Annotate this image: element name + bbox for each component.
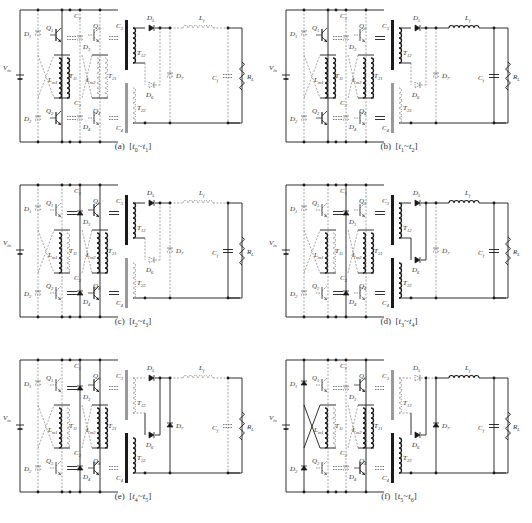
label-d7: D7	[175, 422, 184, 431]
label-t11: T11	[335, 72, 343, 81]
label-d3: D3	[348, 393, 357, 402]
panel-label: (a)	[115, 141, 125, 151]
label-d1: D1	[23, 30, 31, 39]
label-d7: D7	[441, 72, 450, 81]
label-q1: Q1	[312, 374, 319, 383]
label-cf: Cf	[212, 424, 219, 433]
label-d4: D4	[82, 473, 91, 482]
circuit-panel-c: VinD1D2Q1Q2C1C2D3D4Lm1T11Q3Q4C3C4Lm2T21T…	[0, 175, 266, 345]
label-d4: D4	[82, 298, 91, 307]
label-d4: D4	[348, 298, 357, 307]
label-q2: Q2	[312, 457, 320, 466]
label-d2: D2	[289, 465, 298, 474]
label-t12: T12	[403, 224, 412, 233]
panel-label: (c)	[115, 316, 125, 326]
label-c1: C1	[74, 12, 81, 21]
label-d2: D2	[289, 290, 298, 299]
label-d3: D3	[82, 393, 91, 402]
label-l1: Lf	[198, 364, 205, 373]
label-d4: D4	[348, 123, 357, 132]
label-lm1: Lm1	[313, 251, 323, 260]
label-d3: D3	[82, 43, 91, 52]
label-c3: C3	[382, 197, 390, 206]
label-d5: D5	[412, 364, 421, 373]
label-c4: C4	[116, 299, 124, 308]
label-d4: D4	[348, 473, 357, 482]
label-rl: RL	[246, 73, 254, 82]
label-t21: T21	[108, 72, 116, 81]
label-q3: Q3	[359, 22, 367, 31]
label-c1: C1	[340, 362, 347, 371]
label-c2: C2	[74, 449, 82, 458]
label-q2: Q2	[312, 107, 320, 116]
label-vin: Vin	[3, 414, 12, 423]
label-c4: C4	[382, 474, 390, 483]
circuit-diagram: VinD1D2Q1Q2C1C2D3D4Lm1T11Q3Q4C3C4Lm2T21T…	[266, 0, 532, 155]
label-t21: T21	[108, 422, 116, 431]
label-q3: Q3	[93, 22, 101, 31]
label-d2: D2	[23, 115, 32, 124]
label-d1: D1	[23, 205, 31, 214]
label-t22: T22	[403, 104, 412, 113]
label-q1: Q1	[46, 199, 53, 208]
label-d1: D1	[289, 205, 297, 214]
panel-caption: (b) [t1~t2]	[266, 141, 532, 153]
label-d5: D5	[146, 189, 155, 198]
label-d7: D7	[175, 247, 184, 256]
label-c2: C2	[340, 274, 348, 283]
label-c4: C4	[382, 124, 390, 133]
label-t11: T11	[69, 247, 77, 256]
label-q2: Q2	[46, 107, 54, 116]
label-t11: T11	[69, 72, 77, 81]
label-cf: Cf	[478, 249, 485, 258]
label-d6: D6	[145, 441, 154, 450]
label-d2: D2	[23, 290, 32, 299]
label-d1: D1	[289, 30, 297, 39]
label-rl: RL	[512, 248, 520, 257]
label-q3: Q3	[359, 197, 367, 206]
label-d5: D5	[146, 364, 155, 373]
label-q1: Q1	[46, 374, 53, 383]
label-vin: Vin	[3, 64, 12, 73]
label-t21: T21	[108, 247, 116, 256]
panel-caption: (c) [t2~t3]	[0, 316, 266, 328]
panel-label: (e)	[115, 491, 125, 501]
label-l1: Lf	[464, 14, 471, 23]
label-d4: D4	[82, 123, 91, 132]
label-t12: T12	[403, 399, 412, 408]
label-t12: T12	[137, 49, 146, 58]
label-t22: T22	[137, 454, 146, 463]
label-rl: RL	[246, 248, 254, 257]
label-d5: D5	[146, 14, 155, 23]
label-d6: D6	[145, 266, 154, 275]
label-q2: Q2	[312, 282, 320, 291]
label-t12: T12	[137, 399, 146, 408]
panel-caption: (f) [t5~t6]	[266, 491, 532, 503]
label-lm1: Lm1	[47, 251, 57, 260]
label-d3: D3	[82, 218, 91, 227]
circuit-diagram: VinD1D2Q1Q2C1C2D3D4Lm1T11Q3Q4C3C4Lm2T21T…	[0, 175, 266, 330]
circuit-panel-f: VinD1D2Q1Q2C1C2D3D4Lm1T11Q3Q4C3C4Lm2T21T…	[266, 350, 532, 520]
circuit-diagram: VinD1D2Q1Q2C1C2D3D4Lm1T11Q3Q4C3C4Lm2T21T…	[266, 350, 532, 505]
label-cf: Cf	[212, 74, 219, 83]
label-d1: D1	[289, 380, 297, 389]
label-t11: T11	[335, 247, 343, 256]
label-d6: D6	[411, 441, 420, 450]
label-rl: RL	[512, 73, 520, 82]
label-d2: D2	[23, 465, 32, 474]
label-t22: T22	[137, 104, 146, 113]
label-t21: T21	[374, 72, 382, 81]
label-d7: D7	[441, 422, 450, 431]
label-c4: C4	[116, 124, 124, 133]
label-cf: Cf	[478, 424, 485, 433]
label-t21: T21	[374, 422, 382, 431]
label-q1: Q1	[312, 24, 319, 33]
label-d1: D1	[23, 380, 31, 389]
label-c4: C4	[382, 299, 390, 308]
label-vin: Vin	[269, 239, 278, 248]
circuit-panel-d: VinD1D2Q1Q2C1C2D3D4Lm1T11Q3Q4C3C4Lm2T21T…	[266, 175, 532, 345]
label-t22: T22	[137, 279, 146, 288]
label-vin: Vin	[3, 239, 12, 248]
label-t11: T11	[69, 422, 77, 431]
label-d6: D6	[145, 91, 154, 100]
